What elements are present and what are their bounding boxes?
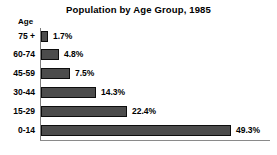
plot-area: 75 + 1.7% 60-74 4.8% 45-59 7.5% 30-44: [0, 28, 277, 145]
bar[interactable]: [41, 125, 231, 136]
value-label: 1.7%: [53, 28, 72, 45]
y-axis-label: Age: [18, 17, 33, 26]
value-label: 14.3%: [101, 84, 125, 101]
category-label: 45-59: [0, 65, 35, 82]
value-label: 22.4%: [132, 103, 156, 120]
table-row: 45-59 7.5%: [0, 65, 277, 82]
value-label: 7.5%: [75, 65, 94, 82]
category-label: 15-29: [0, 103, 35, 120]
value-label: 49.3%: [236, 122, 260, 139]
category-label: 60-74: [0, 46, 35, 63]
x-axis-baseline: [40, 140, 270, 141]
bar[interactable]: [41, 68, 70, 79]
table-row: 15-29 22.4%: [0, 103, 277, 120]
table-row: 60-74 4.8%: [0, 46, 277, 63]
bar[interactable]: [41, 49, 59, 60]
bar[interactable]: [41, 31, 48, 42]
table-row: 30-44 14.3%: [0, 84, 277, 101]
chart-title: Population by Age Group, 1985: [0, 4, 277, 15]
table-row: 75 + 1.7%: [0, 28, 277, 45]
bar[interactable]: [41, 106, 127, 117]
category-label: 75 +: [0, 28, 35, 45]
bar-chart: Population by Age Group, 1985 Age 75 + 1…: [0, 0, 277, 155]
category-label: 30-44: [0, 84, 35, 101]
value-label: 4.8%: [64, 46, 83, 63]
bar[interactable]: [41, 87, 96, 98]
table-row: 0-14 49.3%: [0, 122, 277, 139]
category-label: 0-14: [0, 122, 35, 139]
